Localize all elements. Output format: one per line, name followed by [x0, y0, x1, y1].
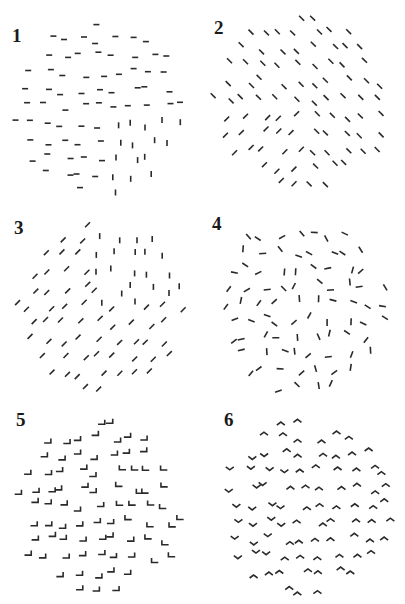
corner-left-element: [45, 521, 52, 526]
random-dash-element: [350, 351, 353, 358]
forward-slash-element: [109, 353, 114, 358]
backslash-element: [361, 149, 366, 154]
corner-left-element: [80, 465, 87, 470]
down-chevron-element: [266, 467, 274, 470]
down-chevron-element: [260, 454, 268, 457]
up-chevron-element: [366, 539, 374, 542]
backslash-element: [259, 50, 264, 55]
panel-4-texture: [224, 231, 388, 392]
corner-left-element: [79, 551, 86, 556]
forward-slash-element: [102, 371, 107, 376]
backslash-element: [328, 59, 333, 64]
up-chevron-element: [334, 467, 342, 470]
corner-left-element: [81, 483, 88, 488]
backslash-element: [333, 161, 338, 166]
forward-slash-element: [76, 335, 81, 340]
up-chevron-element: [327, 519, 335, 522]
up-chevron-element: [295, 540, 303, 543]
up-chevron-element: [346, 571, 354, 574]
corner-left-element: [56, 572, 63, 577]
forward-slash-element: [143, 340, 148, 345]
random-dash-element: [340, 251, 346, 255]
random-dash-element: [379, 306, 386, 307]
random-dash-element: [315, 365, 317, 372]
backslash-element: [310, 150, 315, 155]
random-dash-element: [324, 268, 331, 269]
forward-slash-element: [97, 337, 102, 342]
down-chevron-element: [267, 517, 275, 520]
corner-left-element: [24, 551, 31, 556]
backslash-element: [323, 78, 328, 83]
backslash-element: [311, 42, 316, 47]
forward-slash-element: [129, 320, 134, 325]
down-chevron-element: [250, 542, 258, 545]
backslash-element: [312, 101, 317, 106]
up-chevron-element: [352, 519, 360, 522]
random-dash-element: [356, 286, 363, 287]
forward-slash-element: [149, 324, 154, 329]
up-chevron-element: [293, 592, 301, 595]
forward-slash-element: [62, 342, 67, 347]
random-dash-element: [292, 283, 295, 289]
forward-slash-element: [32, 319, 37, 324]
forward-slash-element: [161, 317, 166, 322]
corner-left-element: [140, 436, 147, 441]
up-chevron-element: [303, 507, 311, 510]
forward-slash-element: [291, 167, 296, 172]
panel-6-texture: [225, 419, 395, 595]
down-chevron-element: [225, 489, 233, 492]
forward-slash-element: [33, 274, 38, 279]
random-dash-element: [231, 339, 237, 343]
up-chevron-element: [319, 523, 327, 526]
random-dash-element: [272, 322, 278, 326]
down-chevron-element: [276, 506, 284, 509]
panel-2-texture: [211, 16, 384, 187]
backslash-element: [379, 132, 384, 137]
backslash-element: [264, 31, 269, 36]
corner-left-element: [15, 490, 22, 495]
down-chevron-element: [247, 466, 255, 469]
up-chevron-element: [286, 542, 294, 545]
up-chevron-element: [352, 468, 360, 471]
random-dash-element: [231, 272, 238, 273]
corner-left-element: [74, 507, 81, 512]
forward-slash-element: [181, 307, 186, 312]
up-chevron-element: [296, 469, 304, 472]
up-chevron-element: [265, 572, 273, 575]
forward-slash-element: [24, 307, 29, 312]
up-chevron-element: [353, 554, 361, 557]
up-chevron-element: [333, 431, 341, 434]
forward-slash-element: [110, 325, 115, 330]
backslash-element: [333, 44, 338, 49]
corner-left-element: [93, 587, 100, 592]
forward-slash-element: [262, 162, 267, 167]
corner-left-element: [32, 488, 39, 493]
corner-left-element: [124, 570, 131, 575]
corner-left-element: [24, 470, 31, 475]
forward-slash-element: [132, 369, 137, 374]
forward-slash-element: [43, 317, 48, 322]
random-dash-element: [300, 231, 305, 236]
forward-slash-element: [44, 270, 49, 275]
random-dash-element: [264, 314, 271, 316]
down-chevron-element: [234, 556, 242, 559]
corner-left-element: [99, 535, 106, 540]
random-dash-element: [295, 255, 302, 257]
up-chevron-element: [319, 453, 327, 456]
random-dash-element: [249, 371, 253, 376]
backslash-element: [312, 83, 317, 88]
forward-slash-element: [258, 147, 263, 152]
down-chevron-element: [248, 507, 256, 510]
backslash-element: [379, 111, 384, 116]
down-chevron-element: [268, 503, 276, 506]
backslash-element: [260, 61, 265, 66]
backslash-element: [341, 160, 346, 165]
up-chevron-element: [380, 537, 388, 540]
down-chevron-element: [226, 467, 234, 470]
up-chevron-element: [293, 419, 301, 422]
forward-slash-element: [117, 340, 122, 345]
up-chevron-element: [365, 448, 373, 451]
corner-left-element: [31, 498, 38, 503]
backslash-element: [299, 82, 304, 87]
corner-left-element: [76, 571, 83, 576]
